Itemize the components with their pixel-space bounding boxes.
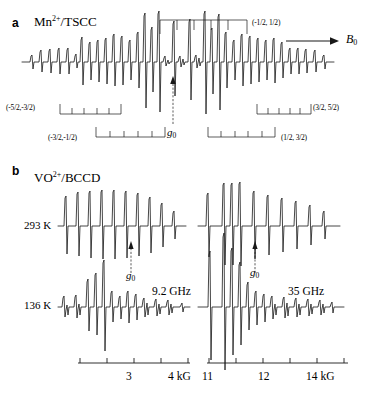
trace-136k-x-band — [58, 260, 190, 351]
trace-293k-x-band — [58, 190, 186, 259]
g0-letter-a: g — [167, 126, 173, 138]
axis-tick-label-12kg: 12 — [258, 370, 270, 382]
axis-tick-label-11kg: 11 — [202, 370, 213, 382]
label-transition-plus3half-plus5half: (3/2, 5/2) — [313, 103, 339, 112]
g0-subscript-a: 0 — [173, 131, 177, 140]
panel-a-trace — [22, 11, 334, 114]
comb-minus3half-minus1half — [96, 127, 165, 137]
panel-b-spectra — [0, 155, 371, 385]
label-transition-minus3half-minus1half: (-3/2,-1/2) — [48, 133, 77, 142]
g0-pointer-293k-q-band — [252, 241, 257, 273]
comb-plus3half-plus5half — [257, 104, 311, 114]
trace-136k-q-band — [198, 233, 344, 370]
label-transition-minus5half-minus3half: (-5/2,-3/2) — [6, 103, 35, 112]
g0-pointer-293k-x-band — [128, 241, 133, 273]
axis-tick-label-3kg: 3 — [126, 370, 132, 382]
comb-plus1half-plus3half — [208, 127, 275, 137]
trace-293k-q-band — [198, 182, 340, 266]
comb-minus5half-minus3half — [60, 104, 121, 114]
x-band-axis — [78, 358, 190, 363]
q-band-axis — [207, 358, 348, 363]
epr-figure: a Mn2+/TSCC B0 — [0, 0, 371, 403]
axis-tick-label-14kg: 14 kG — [306, 370, 334, 382]
label-transition-plus1half-plus3half: (1/2, 3/2) — [281, 133, 307, 142]
label-transition-minus-half-plus-half: (-1/2, 1/2) — [252, 18, 280, 27]
axis-tick-label-4kg: 4 kG — [168, 370, 191, 382]
g0-label-panel-a: g0 — [167, 126, 176, 138]
